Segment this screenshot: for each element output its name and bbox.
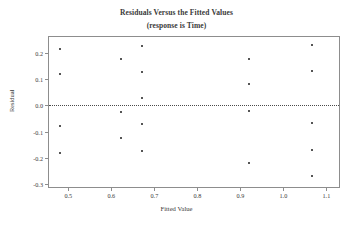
chart-title: Residuals Versus the Fitted Values [0, 8, 353, 17]
x-tick-label: 1.1 [323, 192, 331, 199]
residual-plot-figure: Residuals Versus the Fitted Values (resp… [0, 0, 353, 225]
data-point [120, 58, 122, 60]
x-tick-label: 0.9 [236, 192, 244, 199]
y-tick-mark [45, 184, 49, 185]
x-tick-mark [283, 187, 284, 191]
zero-reference-line [49, 105, 339, 106]
y-tick-mark [45, 79, 49, 80]
y-tick-mark [45, 132, 49, 133]
y-axis-title: Residual [8, 90, 15, 112]
x-axis-title: Fitted Value [0, 205, 353, 212]
x-tick-label: 1.0 [279, 192, 287, 199]
data-point [59, 48, 61, 50]
data-point [141, 71, 143, 73]
data-point [248, 162, 250, 164]
data-point [311, 70, 313, 72]
x-tick-mark [68, 187, 69, 191]
y-tick-label: 0.0 [35, 102, 43, 109]
y-tick-mark [45, 158, 49, 159]
y-tick-label: 0.1 [35, 76, 43, 83]
data-point [59, 125, 61, 127]
data-point [311, 44, 313, 46]
x-tick-mark [240, 187, 241, 191]
data-point [141, 97, 143, 99]
data-point [120, 137, 122, 139]
data-point [141, 150, 143, 152]
data-point [141, 123, 143, 125]
data-point [120, 111, 122, 113]
x-tick-mark [111, 187, 112, 191]
plot-area: 0.20.10.0-0.1-0.2-0.3 0.50.60.70.80.91.0… [48, 36, 340, 188]
y-tick-mark [45, 105, 49, 106]
y-tick-label: -0.2 [33, 154, 43, 161]
x-tick-label: 0.5 [64, 192, 72, 199]
chart-subtitle: (response is Time) [0, 21, 353, 30]
data-point [59, 73, 61, 75]
data-point [311, 122, 313, 124]
x-tick-mark [326, 187, 327, 191]
x-tick-label: 0.7 [150, 192, 158, 199]
x-tick-label: 0.6 [107, 192, 115, 199]
data-point [141, 45, 143, 47]
data-point [59, 152, 61, 154]
data-point [248, 58, 250, 60]
x-tick-mark [154, 187, 155, 191]
data-point [248, 110, 250, 112]
x-tick-label: 0.8 [193, 192, 201, 199]
data-point [248, 83, 250, 85]
y-tick-label: -0.1 [33, 128, 43, 135]
y-tick-mark [45, 53, 49, 54]
data-point [311, 175, 313, 177]
y-tick-label: 0.2 [35, 49, 43, 56]
y-tick-label: -0.3 [33, 181, 43, 188]
x-tick-mark [197, 187, 198, 191]
data-point [311, 149, 313, 151]
